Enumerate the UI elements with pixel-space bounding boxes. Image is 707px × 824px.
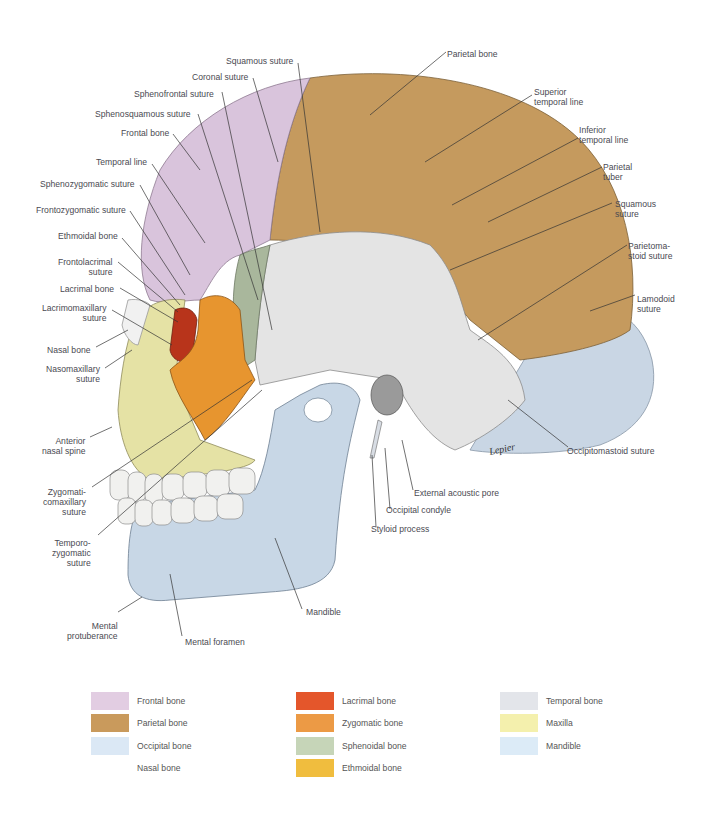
label-occipital-condyle: Occipital condyle — [386, 505, 451, 515]
sphenoidal-bone-swatch — [296, 737, 334, 755]
ethmoidal-bone-swatch — [296, 759, 334, 777]
temporal-bone-swatch — [500, 692, 538, 710]
frontal-bone-swatch — [91, 692, 129, 710]
label-squamous-suture: Squamous suture — [226, 56, 293, 66]
label-frontolacrimal-suture: Frontolacrimal suture — [58, 257, 112, 277]
legend-label: Temporal bone — [546, 696, 603, 706]
mandibular-notch — [304, 398, 332, 422]
label-sphenosquamous-suture: Sphenosquamous suture — [95, 109, 191, 119]
label-anterior-nasal-spine: Anterior nasal spine — [42, 436, 85, 456]
legend-label: Maxilla — [546, 718, 573, 728]
legend-label: Mandible — [546, 741, 581, 751]
label-parietal-tuber: Parietal tuber — [603, 162, 632, 182]
label-lacrimal-bone: Lacrimal bone — [60, 284, 114, 294]
label-coronal-suture: Coronal suture — [192, 72, 248, 82]
legend-label: Lacrimal bone — [342, 696, 396, 706]
lacrimal-bone-swatch — [296, 692, 334, 710]
styloid-process-shape — [370, 420, 382, 458]
zygomatic-bone-swatch — [296, 714, 334, 732]
label-occipitomastoid-suture: Occipitomastoid suture — [567, 446, 654, 456]
external-acoustic-pore-shape — [371, 375, 403, 415]
label-frontal-bone: Frontal bone — [121, 128, 169, 138]
label-external-acoustic-pore: External acoustic pore — [414, 488, 499, 498]
legend-label: Ethmoidal bone — [342, 763, 402, 773]
legend-label: Occipital bone — [137, 741, 191, 751]
legend-label: Nasal bone — [137, 763, 180, 773]
legend-label: Parietal bone — [137, 718, 188, 728]
label-sphenozygomatic-suture: Sphenozygomatic suture — [40, 179, 135, 189]
label-ethmoidal-bone: Ethmoidal bone — [58, 231, 118, 241]
maxilla-swatch — [500, 714, 538, 732]
label-squamous-suture-right: Squamous suture — [615, 199, 656, 219]
nasal-bone-swatch — [91, 759, 129, 777]
label-parietal-bone: Parietal bone — [447, 49, 498, 59]
legend-label: Frontal bone — [137, 696, 185, 706]
mandible-swatch — [500, 737, 538, 755]
label-nasal-bone: Nasal bone — [47, 345, 90, 355]
label-styloid-process: Styloid process — [371, 524, 429, 534]
occipital-bone-swatch — [91, 737, 129, 755]
label-sphenofrontal-suture: Sphenofrontal suture — [134, 89, 214, 99]
label-temporal-line: Temporal line — [96, 157, 147, 167]
label-mental-protuberance: Mental protuberance — [67, 621, 118, 641]
label-zygomaticomaxillary-suture: Zygomati- comaxillary suture — [43, 487, 86, 517]
label-mandible: Mandible — [306, 607, 341, 617]
parietal-bone-swatch — [91, 714, 129, 732]
legend-label: Sphenoidal bone — [342, 741, 407, 751]
label-frontozygomatic-suture: Frontozygomatic suture — [36, 205, 126, 215]
label-superior-temporal-line: Superior temporal line — [534, 87, 583, 107]
label-nasomaxillary-suture: Nasomaxillary suture — [46, 364, 100, 384]
legend-label: Zygomatic bone — [342, 718, 403, 728]
label-mental-foramen: Mental foramen — [185, 637, 245, 647]
label-temporozygomatic-suture: Temporo- zygomatic suture — [52, 538, 91, 568]
label-lacrimomaxillary-suture: Lacrimomaxillary suture — [42, 303, 106, 323]
label-inferior-temporal-line: Inferior temporal line — [579, 125, 628, 145]
label-lambdoid-suture: Lamodoid suture — [637, 294, 675, 314]
label-parietomastoid-suture: Parietoma- stoid suture — [628, 241, 672, 261]
